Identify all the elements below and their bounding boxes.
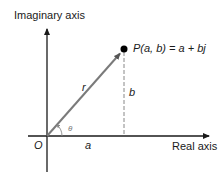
point-p — [121, 46, 128, 53]
vector-label: r — [82, 82, 86, 93]
angle-arc — [57, 125, 62, 136]
angle-label: θ — [68, 125, 72, 133]
vector-r — [47, 54, 120, 137]
horizontal-component-label: a — [85, 140, 91, 151]
point-label: P(a, b) = a + bj — [133, 43, 206, 54]
imaginary-axis-label: Imaginary axis — [14, 10, 85, 21]
complex-plane-diagram — [0, 0, 223, 182]
origin-label: O — [34, 140, 43, 151]
real-axis-label: Real axis — [172, 141, 217, 152]
vertical-component-label: b — [129, 87, 135, 98]
